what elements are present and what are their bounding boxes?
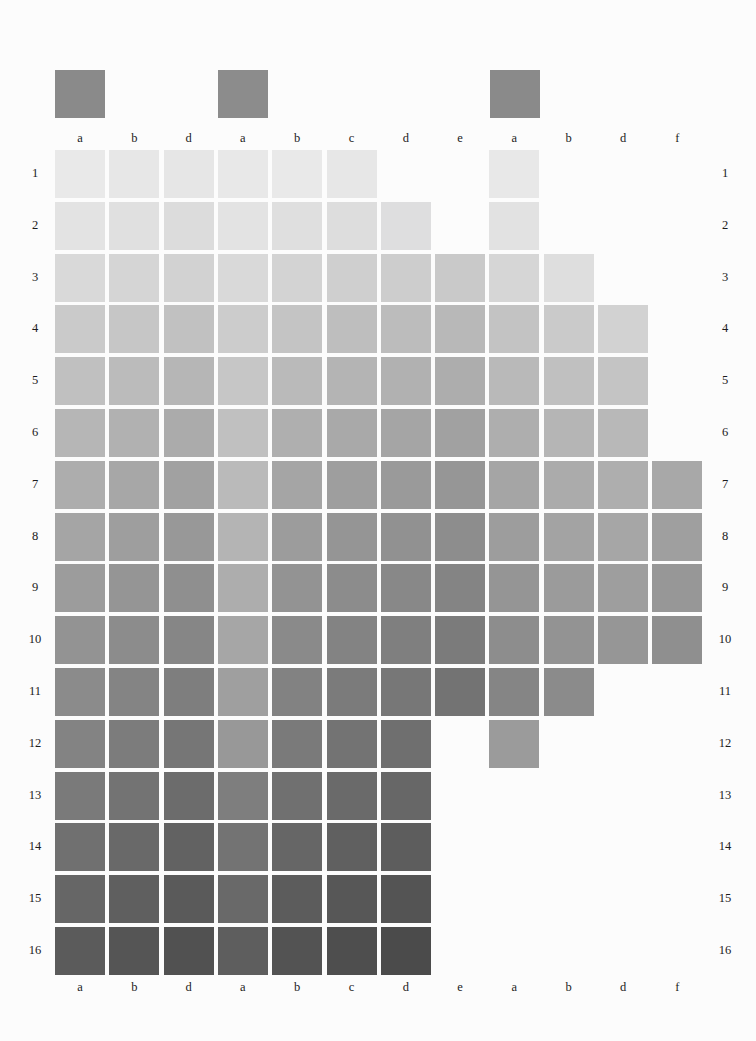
swatch-cell	[381, 720, 431, 768]
swatch-cell	[55, 513, 105, 561]
swatch-cell	[327, 875, 377, 923]
swatch-cell	[164, 927, 214, 975]
swatch-cell	[435, 564, 485, 612]
swatch-cell	[489, 254, 539, 302]
swatch-cell	[489, 616, 539, 664]
column-label-bottom-5: c	[327, 980, 377, 995]
column-label-bottom-11: f	[652, 980, 702, 995]
swatch-cell	[489, 564, 539, 612]
swatch-cell	[381, 668, 431, 716]
column-label-bottom-1: b	[109, 980, 159, 995]
swatch-cell	[327, 513, 377, 561]
swatch-cell	[435, 357, 485, 405]
column-label-bottom-6: d	[381, 980, 431, 995]
swatch-cell	[55, 357, 105, 405]
swatch-cell	[272, 150, 322, 198]
swatch-cell	[327, 357, 377, 405]
swatch-cell	[489, 202, 539, 250]
swatch-cell	[109, 305, 159, 353]
swatch-cell	[272, 513, 322, 561]
row-label-left-6: 6	[22, 425, 48, 440]
swatch-cell	[327, 409, 377, 457]
swatch-cell	[381, 461, 431, 509]
swatch-cell	[55, 927, 105, 975]
swatch-cell	[544, 513, 594, 561]
row-label-left-1: 1	[22, 166, 48, 181]
swatch-cell	[652, 513, 702, 561]
row-label-right-12: 12	[712, 736, 738, 751]
column-label-bottom-0: a	[55, 980, 105, 995]
row-label-right-16: 16	[712, 943, 738, 958]
column-label-bottom-9: b	[544, 980, 594, 995]
row-label-right-9: 9	[712, 580, 738, 595]
row-label-right-3: 3	[712, 270, 738, 285]
swatch-cell	[55, 202, 105, 250]
row-label-right-4: 4	[712, 321, 738, 336]
column-label-bottom-3: a	[218, 980, 268, 995]
swatch-cell	[381, 409, 431, 457]
swatch-cell	[598, 616, 648, 664]
swatch-cell	[164, 616, 214, 664]
swatch-cell	[435, 513, 485, 561]
swatch-cell	[544, 305, 594, 353]
swatch-cell	[272, 772, 322, 820]
swatch-cell	[218, 668, 268, 716]
swatch-cell	[55, 720, 105, 768]
swatch-cell	[164, 823, 214, 871]
swatch-cell	[272, 409, 322, 457]
swatch-cell	[218, 409, 268, 457]
swatch-cell	[489, 357, 539, 405]
swatch-cell	[218, 720, 268, 768]
section-swatch-fo	[218, 70, 268, 118]
row-label-left-3: 3	[22, 270, 48, 285]
swatch-cell	[272, 875, 322, 923]
swatch-cell	[218, 875, 268, 923]
swatch-cell	[544, 254, 594, 302]
swatch-cell	[327, 772, 377, 820]
swatch-cell	[164, 357, 214, 405]
swatch-cell	[598, 305, 648, 353]
column-label-top-6: d	[381, 131, 431, 146]
row-label-left-12: 12	[22, 736, 48, 751]
column-label-bottom-7: e	[435, 980, 485, 995]
column-label-top-11: f	[652, 131, 702, 146]
row-label-right-13: 13	[712, 788, 738, 803]
swatch-cell	[272, 616, 322, 664]
swatch-cell	[55, 823, 105, 871]
swatch-cell	[109, 513, 159, 561]
swatch-cell	[272, 202, 322, 250]
swatch-cell	[381, 772, 431, 820]
swatch-cell	[435, 616, 485, 664]
swatch-cell	[489, 150, 539, 198]
row-label-right-1: 1	[712, 166, 738, 181]
swatch-cell	[381, 927, 431, 975]
swatch-cell	[109, 564, 159, 612]
swatch-cell	[544, 409, 594, 457]
column-label-top-9: b	[544, 131, 594, 146]
swatch-cell	[164, 254, 214, 302]
swatch-cell	[272, 927, 322, 975]
swatch-cell	[381, 305, 431, 353]
column-label-top-1: b	[109, 131, 159, 146]
swatch-cell	[435, 461, 485, 509]
swatch-cell	[55, 305, 105, 353]
swatch-cell	[489, 668, 539, 716]
column-label-top-0: a	[55, 131, 105, 146]
swatch-cell	[381, 564, 431, 612]
swatch-cell	[381, 616, 431, 664]
row-label-left-5: 5	[22, 373, 48, 388]
swatch-cell	[598, 409, 648, 457]
column-label-top-7: e	[435, 131, 485, 146]
column-label-bottom-8: a	[489, 980, 539, 995]
swatch-cell	[272, 823, 322, 871]
swatch-cell	[327, 927, 377, 975]
swatch-cell	[327, 564, 377, 612]
swatch-cell	[55, 875, 105, 923]
swatch-cell	[272, 720, 322, 768]
row-label-right-7: 7	[712, 477, 738, 492]
swatch-cell	[544, 357, 594, 405]
column-label-top-10: d	[598, 131, 648, 146]
row-label-right-2: 2	[712, 218, 738, 233]
row-label-right-14: 14	[712, 839, 738, 854]
swatch-cell	[544, 668, 594, 716]
